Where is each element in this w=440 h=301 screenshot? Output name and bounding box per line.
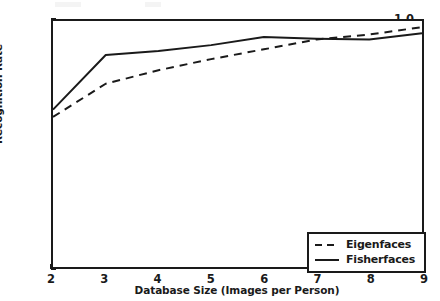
scan-artifact — [145, 2, 161, 7]
y-axis-label: Recognition Rate — [0, 44, 4, 144]
x-tick-label: 2 — [47, 272, 55, 286]
legend-label-eigenfaces: Eigenfaces — [346, 238, 411, 251]
series-line-fisherfaces — [53, 33, 422, 109]
x-tick-label: 3 — [100, 272, 108, 286]
x-tick-label: 7 — [313, 272, 321, 286]
legend-box: Eigenfaces Fisherfaces — [307, 232, 426, 273]
data-lines — [53, 21, 422, 267]
x-tick-label: 6 — [260, 272, 268, 286]
legend-swatch-solid — [314, 254, 340, 266]
legend-label-fisherfaces: Fisherfaces — [346, 253, 415, 266]
x-tick-label: 4 — [154, 272, 162, 286]
x-axis-label: Database Size (Images per Person) — [135, 284, 340, 296]
x-tick-label: 5 — [207, 272, 215, 286]
scan-artifact — [55, 2, 81, 7]
x-tick-label: 9 — [420, 272, 428, 286]
legend-item-fisherfaces: Fisherfaces — [314, 252, 419, 267]
legend-item-eigenfaces: Eigenfaces — [314, 237, 419, 252]
x-tick-label: 8 — [367, 272, 375, 286]
figure-canvas: Recognition Rate Database Size (Images p… — [0, 0, 440, 301]
legend-swatch-dashed — [314, 239, 340, 251]
